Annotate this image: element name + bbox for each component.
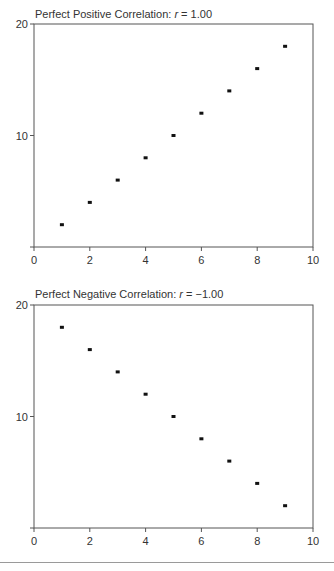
data-point (60, 326, 64, 329)
y-tick-label: 20 (16, 299, 28, 311)
data-point (255, 482, 259, 485)
x-tick-label: 6 (198, 535, 204, 547)
x-tick-label: 8 (254, 535, 260, 547)
data-point (116, 370, 120, 373)
negative-correlation-chart: Perfect Negative Correlation: r = −1.00 … (0, 0, 334, 560)
y-tick-label: 10 (16, 411, 28, 423)
data-point (283, 504, 287, 507)
data-point (227, 460, 231, 463)
x-tick-label: 0 (31, 535, 37, 547)
page-divider (0, 562, 334, 563)
x-tick-label: 2 (87, 535, 93, 547)
data-point (199, 437, 203, 440)
data-point (172, 415, 176, 418)
data-point (88, 348, 92, 351)
plot-area: 02468101020 (0, 0, 334, 560)
data-point (144, 393, 148, 396)
x-tick-label: 4 (143, 535, 149, 547)
x-tick-label: 10 (307, 535, 319, 547)
